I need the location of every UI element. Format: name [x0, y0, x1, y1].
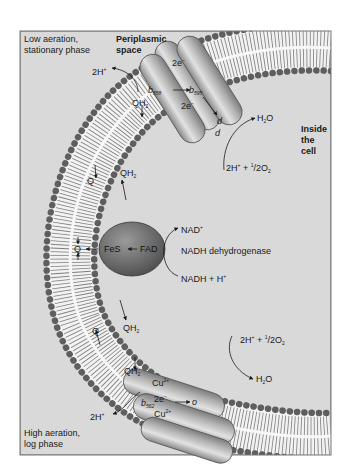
- top-proton-label: 2H+: [92, 64, 106, 78]
- cu-label-top: Cu2+: [152, 375, 169, 389]
- bottom-oxygen-label: 2H+ + 1/2O2: [240, 332, 285, 349]
- bottom-proton-label: 2H+: [90, 409, 104, 423]
- top-electrons-label: 2e−: [172, 55, 185, 69]
- cu-label-bottom: Cu2+: [154, 406, 171, 420]
- inside-the-cell-label: Insidethecell: [301, 124, 327, 157]
- cytochrome-b595-label: b595: [189, 85, 202, 99]
- bottom-water-label: H2O: [256, 374, 272, 388]
- cytochrome-d-label-2: d: [215, 128, 220, 139]
- top-mid-electrons-label: 2e−: [181, 98, 194, 112]
- cytochrome-b558-label: b558: [148, 85, 161, 99]
- fes-label: FeS: [104, 244, 121, 255]
- top-water-label: H2O: [257, 113, 273, 127]
- nadh-dehydrogenase-label: NADH dehydrogenase: [181, 246, 271, 257]
- nad-label: NAD+: [181, 222, 203, 236]
- nadh-label: NADH + H+: [181, 271, 226, 285]
- qh2-label-top: QH2: [132, 98, 148, 112]
- cytochrome-o-label: o: [192, 397, 197, 408]
- qh2-label-bottom: QH2: [124, 366, 140, 380]
- cytochrome-b562-label: b562: [141, 398, 154, 412]
- cytochrome-d-label-1: d: [217, 116, 222, 127]
- respiratory-chain-figure: Low aeration,stationary phase Periplasmi…: [0, 0, 347, 474]
- q-label-middle: Q: [74, 244, 81, 255]
- qh2-label-upper: QH2: [120, 168, 136, 182]
- qh2-label-lower: QH2: [123, 323, 139, 337]
- q-label-lower: Q: [92, 326, 99, 337]
- top-oxygen-label: 2H+ + 1/2O2: [226, 160, 271, 177]
- bottom-electrons-label: 2e−: [154, 391, 167, 405]
- periplasmic-space-label: Periplasmicspace: [116, 34, 167, 56]
- membrane-diagram: [0, 0, 347, 474]
- low-aeration-label: Low aeration,stationary phase: [24, 34, 90, 56]
- high-aeration-label: High aeration,log phase: [24, 428, 80, 450]
- q-label-upper: Q: [87, 176, 94, 187]
- fad-label: FAD: [140, 244, 158, 255]
